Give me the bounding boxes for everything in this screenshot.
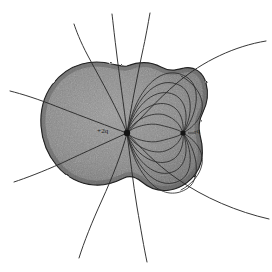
field-line-diagram xyxy=(0,0,272,272)
negative-charge-label: -q xyxy=(194,128,200,135)
positive-charge-dot xyxy=(124,130,130,136)
negative-charge-dot xyxy=(180,130,185,135)
figure-canvas: +2q -q xyxy=(0,0,272,272)
positive-charge-label: +2q xyxy=(97,128,109,135)
